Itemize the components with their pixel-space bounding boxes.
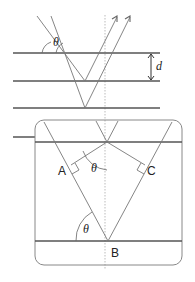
reflected-rays (85, 17, 130, 108)
incident-ray-2 (51, 16, 85, 108)
point-c-label: C (147, 164, 156, 178)
inner-rays (44, 121, 172, 241)
inner-ray-v-right (107, 121, 118, 142)
perpendicular-c (107, 142, 145, 165)
reflected-ray-2 (85, 17, 130, 108)
right-angle-icon (72, 163, 144, 174)
theta-label-bottom: θ (83, 222, 89, 236)
point-a-label: A (58, 164, 66, 178)
theta-label-top: θ (53, 35, 59, 49)
reflected-ray-1 (85, 17, 117, 81)
inner-reflected-ray (108, 122, 172, 241)
point-b-label: B (111, 246, 119, 260)
inner-incident-ray (44, 122, 108, 241)
theta-label-inner: θ (91, 161, 97, 175)
bragg-diagram: θ d θ θ A C B (0, 0, 195, 282)
incident-rays (37, 16, 85, 108)
spacing-label: d (156, 59, 163, 73)
spacing-arrow (148, 54, 154, 80)
crystal-planes (13, 53, 160, 108)
incident-ray-1 (37, 16, 85, 81)
